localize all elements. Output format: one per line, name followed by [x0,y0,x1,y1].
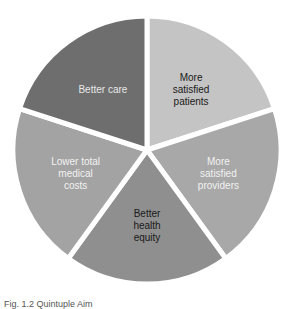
slice-label: Betterhealthequity [133,208,161,243]
slice-label: Better care [78,84,127,95]
figure-caption: Fig. 1.2 Quintuple Aim [4,299,93,309]
pie-slices [13,16,281,284]
